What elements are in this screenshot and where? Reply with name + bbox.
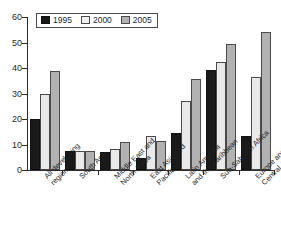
legend-label-1995: 1995 bbox=[53, 16, 72, 25]
legend-swatch-2000 bbox=[81, 16, 90, 24]
bar-2005 bbox=[261, 32, 271, 170]
y-tick-label-30: 30 bbox=[0, 90, 22, 99]
bar-1995 bbox=[30, 119, 40, 170]
bar-group bbox=[30, 71, 60, 170]
y-tick-label-60: 60 bbox=[0, 13, 22, 22]
y-tick-label-0: 0 bbox=[0, 166, 22, 175]
legend-item-1995: 1995 bbox=[41, 16, 72, 25]
bar-2000 bbox=[40, 94, 50, 171]
x-separator-tick bbox=[98, 170, 99, 175]
y-tick-label-10: 10 bbox=[0, 141, 22, 150]
bar-2005 bbox=[50, 71, 60, 170]
chart-legend: 1995 2000 2005 bbox=[36, 13, 158, 28]
y-tick-0 bbox=[22, 170, 27, 171]
bar-2000 bbox=[251, 77, 261, 170]
legend-swatch-1995 bbox=[41, 16, 50, 24]
y-tick-label-50: 50 bbox=[0, 39, 22, 48]
legend-swatch-2005 bbox=[121, 16, 130, 24]
x-separator-tick bbox=[239, 170, 240, 175]
legend-item-2000: 2000 bbox=[81, 16, 112, 25]
legend-label-2005: 2005 bbox=[133, 16, 152, 25]
legend-label-2000: 2000 bbox=[93, 16, 112, 25]
y-tick-label-40: 40 bbox=[0, 64, 22, 73]
y-tick-label-20: 20 bbox=[0, 115, 22, 124]
legend-item-2005: 2005 bbox=[121, 16, 152, 25]
bar-chart: 0102030405060 All developingregionsSouth… bbox=[0, 0, 281, 242]
